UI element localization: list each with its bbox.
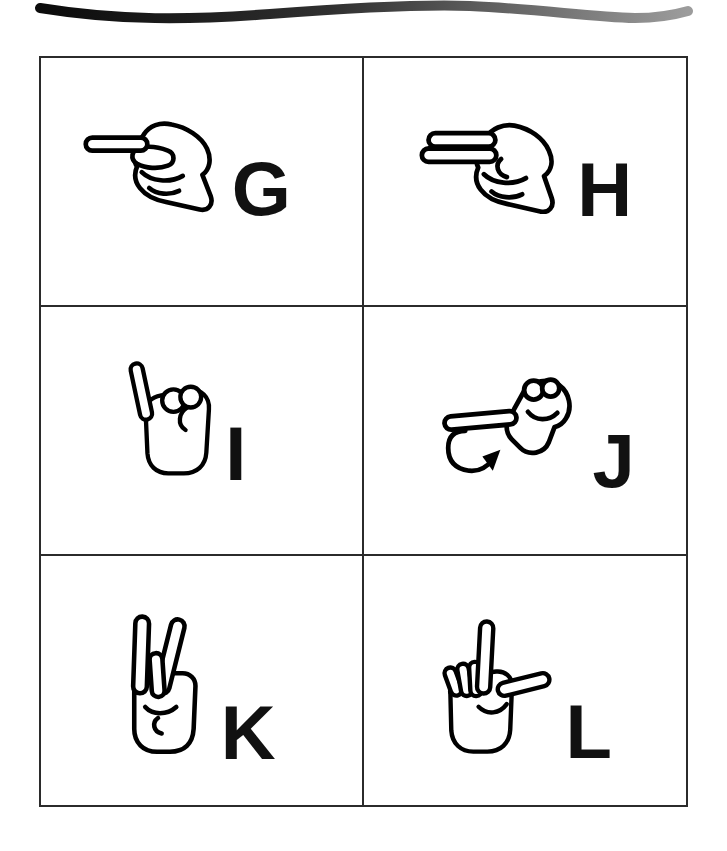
flashcard-cell-h: H [364,58,687,307]
card-letter-k: K [221,695,274,771]
card-content-l: L [424,617,610,756]
asl-hand-sign-l-icon [424,617,556,756]
asl-hand-sign-g-icon [82,118,222,213]
asl-hand-sign-j-icon [433,372,583,484]
asl-hand-sign-k-icon [105,612,211,756]
card-content-g: G [82,118,289,213]
card-letter-i: I [225,416,244,492]
asl-hand-sign-h-icon [419,117,567,214]
flashcard-cell-l: L [364,556,687,805]
flashcard-grid: G H [39,56,688,807]
asl-hand-sign-i-icon [118,359,215,479]
card-content-k: K [105,612,274,756]
flashcard-cell-i: I [41,307,364,556]
flashcard-cell-k: K [41,556,364,805]
card-content-h: H [419,117,630,214]
decorative-wave-ribbon-icon [0,0,727,34]
card-content-j: J [433,372,633,484]
card-letter-g: G [232,151,289,227]
flashcard-cell-j: J [364,307,687,556]
card-letter-j: J [593,423,633,499]
flashcard-cell-g: G [41,58,364,307]
card-content-i: I [118,359,244,479]
j-motion-curve-arrow-icon [448,431,500,471]
card-letter-h: H [577,152,630,228]
card-letter-l: L [566,694,610,770]
